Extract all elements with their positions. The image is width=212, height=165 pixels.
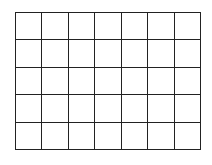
grid-cell: [69, 95, 95, 122]
grid-cell: [16, 123, 42, 150]
grid-cell: [122, 95, 148, 122]
grid-cell: [148, 40, 174, 67]
grid-cell: [42, 123, 68, 150]
grid-cell: [42, 68, 68, 95]
empty-grid: [15, 12, 201, 150]
grid-cell: [148, 68, 174, 95]
grid-cell: [16, 68, 42, 95]
grid-cell: [122, 13, 148, 40]
grid-cell: [122, 68, 148, 95]
grid-cell: [42, 40, 68, 67]
grid-cell: [69, 68, 95, 95]
grid-cell: [175, 95, 201, 122]
grid-cell: [122, 40, 148, 67]
grid-cell: [95, 13, 121, 40]
grid-cell: [69, 123, 95, 150]
grid-cell: [42, 95, 68, 122]
grid-cell: [95, 123, 121, 150]
grid-cell: [175, 123, 201, 150]
grid-cell: [148, 123, 174, 150]
grid-cell: [69, 40, 95, 67]
grid-cell: [148, 95, 174, 122]
grid-cell: [16, 13, 42, 40]
grid-cell: [122, 123, 148, 150]
grid-cell: [16, 40, 42, 67]
grid-cell: [175, 13, 201, 40]
grid-cell: [42, 13, 68, 40]
grid-cell: [16, 95, 42, 122]
grid-cell: [175, 40, 201, 67]
grid-cell: [175, 68, 201, 95]
grid-cell: [95, 68, 121, 95]
grid-cell: [148, 13, 174, 40]
grid-cell: [95, 40, 121, 67]
grid-cell: [95, 95, 121, 122]
canvas: [0, 0, 212, 165]
grid-cell: [69, 13, 95, 40]
